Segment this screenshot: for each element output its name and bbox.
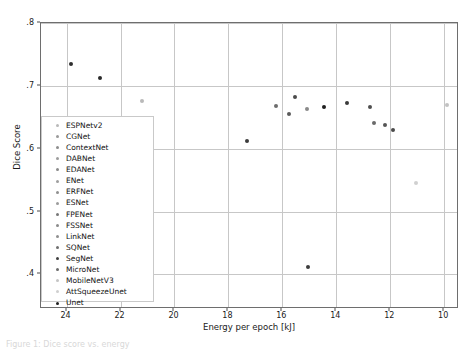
- data-point: [368, 105, 372, 109]
- legend-marker-dot-icon: [56, 290, 59, 293]
- legend-marker-cell: [48, 290, 66, 293]
- y-tick-label: .8: [26, 18, 34, 27]
- legend-item-label: Unet: [66, 299, 84, 307]
- x-tick-label: 18: [222, 311, 232, 320]
- y-axis-label: Dice Score: [12, 107, 22, 187]
- data-point: [287, 112, 291, 116]
- legend-marker-dot-icon: [56, 146, 59, 149]
- legend-item[interactable]: ESPNetv2: [42, 120, 153, 131]
- legend-item[interactable]: ENet: [42, 175, 153, 186]
- legend-marker-dot-icon: [56, 157, 59, 160]
- x-tick-label: 22: [114, 311, 124, 320]
- legend-marker-dot-icon: [56, 235, 59, 238]
- legend-marker-dot-icon: [56, 279, 59, 282]
- data-point: [69, 62, 73, 66]
- legend-marker-cell: [48, 268, 66, 271]
- data-point: [305, 107, 309, 111]
- gridline-vertical: [174, 23, 175, 307]
- data-point: [293, 95, 297, 99]
- y-tick-label: .5: [26, 206, 34, 215]
- legend-marker-dot-icon: [56, 224, 59, 227]
- legend-marker-dot-icon: [56, 168, 59, 171]
- data-point: [445, 103, 449, 107]
- data-point: [383, 123, 387, 127]
- y-tick-label: .4: [26, 269, 34, 278]
- legend-marker-cell: [48, 213, 66, 216]
- legend-item-label: ENet: [66, 177, 84, 185]
- legend-item[interactable]: FPENet: [42, 209, 153, 220]
- legend-marker-cell: [48, 224, 66, 227]
- legend-item[interactable]: FSSNet: [42, 220, 153, 231]
- scatter-plot-figure: 2422201816141210 .8.7.6.5.4 Energy per e…: [0, 0, 473, 349]
- legend-item[interactable]: AttSqueezeUnet: [42, 286, 153, 297]
- y-tick-mark: [37, 273, 40, 274]
- legend-marker-dot-icon: [56, 246, 59, 249]
- y-tick-mark: [37, 84, 40, 85]
- legend-marker-cell: [48, 191, 66, 194]
- legend-marker-cell: [48, 246, 66, 249]
- legend-item[interactable]: EDANet: [42, 164, 153, 175]
- legend-marker-dot-icon: [56, 180, 59, 183]
- legend-item-label: CGNet: [66, 133, 90, 141]
- legend-marker-dot-icon: [56, 191, 59, 194]
- legend-item[interactable]: ESNet: [42, 198, 153, 209]
- legend-marker-cell: [48, 302, 66, 305]
- data-point: [245, 139, 249, 143]
- legend-marker-cell: [48, 180, 66, 183]
- y-tick-mark: [37, 210, 40, 211]
- gridline-vertical: [390, 23, 391, 307]
- legend-item[interactable]: ContextNet: [42, 142, 153, 153]
- y-tick-mark: [37, 147, 40, 148]
- legend-item[interactable]: SegNet: [42, 253, 153, 264]
- data-point: [322, 105, 326, 109]
- legend-marker-cell: [48, 168, 66, 171]
- data-point: [345, 101, 349, 105]
- legend-marker-dot-icon: [56, 257, 59, 260]
- legend-item-label: MobileNetV3: [66, 277, 114, 285]
- legend-item-label: SQNet: [66, 244, 90, 252]
- legend-marker-cell: [48, 202, 66, 205]
- legend-item[interactable]: LinkNet: [42, 231, 153, 242]
- legend-item[interactable]: MobileNetV3: [42, 275, 153, 286]
- legend-marker-cell: [48, 135, 66, 138]
- legend-item[interactable]: Unet: [42, 298, 153, 309]
- data-point: [391, 128, 395, 132]
- legend-item[interactable]: ERFNet: [42, 187, 153, 198]
- data-point: [274, 104, 278, 108]
- data-point: [414, 181, 418, 185]
- legend-item-label: AttSqueezeUnet: [66, 288, 127, 296]
- legend-marker-cell: [48, 157, 66, 160]
- gridline-vertical: [336, 23, 337, 307]
- legend-marker-dot-icon: [56, 302, 59, 305]
- legend-item[interactable]: CGNet: [42, 131, 153, 142]
- legend-item[interactable]: SQNet: [42, 242, 153, 253]
- x-tick-label: 20: [168, 311, 178, 320]
- legend-item[interactable]: MicroNet: [42, 264, 153, 275]
- legend-item-label: LinkNet: [66, 233, 95, 241]
- figure-caption: Figure 1: Dice score vs. energy: [6, 340, 129, 349]
- legend-marker-cell: [48, 257, 66, 260]
- legend-item-label: FSSNet: [66, 222, 93, 230]
- gridline-vertical: [282, 23, 283, 307]
- legend-marker-dot-icon: [56, 213, 59, 216]
- legend-item-label: MicroNet: [66, 266, 99, 274]
- legend-item-label: DABNet: [66, 155, 95, 163]
- legend-item-label: FPENet: [66, 211, 93, 219]
- legend-item-label: ContextNet: [66, 144, 109, 152]
- gridline-horizontal: [41, 86, 457, 87]
- legend-marker-dot-icon: [56, 135, 59, 138]
- x-tick-label: 14: [330, 311, 340, 320]
- legend-marker-dot-icon: [56, 268, 59, 271]
- legend-marker-dot-icon: [56, 202, 59, 205]
- legend-item-label: SegNet: [66, 255, 93, 263]
- data-point: [140, 99, 144, 103]
- legend-item-label: ERFNet: [66, 188, 93, 196]
- legend-marker-dot-icon: [56, 124, 59, 127]
- legend-item-label: ESPNetv2: [66, 122, 102, 130]
- legend-item[interactable]: DABNet: [42, 153, 153, 164]
- y-tick-mark: [37, 22, 40, 23]
- data-point: [306, 265, 310, 269]
- legend-marker-cell: [48, 124, 66, 127]
- x-axis-label: Energy per epoch [kJ]: [40, 322, 458, 332]
- legend-item-label: EDANet: [66, 166, 95, 174]
